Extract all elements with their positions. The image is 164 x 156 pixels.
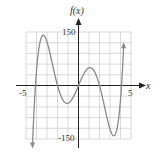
x-max-label: 5	[128, 89, 133, 98]
function-graph	[0, 0, 164, 156]
x-min-label: -5	[19, 89, 27, 98]
y-axis-label: f(x)	[70, 6, 84, 16]
x-axis-label: x	[146, 81, 150, 91]
y-min-label: -150	[58, 134, 75, 143]
y-max-label: 150	[62, 28, 76, 37]
